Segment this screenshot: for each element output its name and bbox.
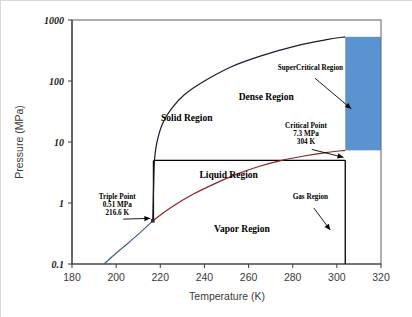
x-tick-label: 220 — [152, 271, 170, 283]
annotation-line: 0.51 MPa — [103, 201, 133, 209]
x-axis-title: Temperature (K) — [189, 290, 265, 302]
y-axis-title: Pressure (MPa) — [13, 105, 25, 179]
annotation-line: Critical Point — [285, 122, 327, 130]
shaded-regions-layer — [345, 37, 381, 151]
x-tick-label: 200 — [107, 271, 125, 283]
annotation-line: 7.3 MPa — [293, 130, 319, 138]
x-tick-label: 260 — [240, 271, 258, 283]
x-tick-label: 280 — [284, 271, 302, 283]
region-label-dense-region: Dense Region — [239, 92, 295, 102]
annotation-line: SuperCritical Region — [278, 64, 343, 72]
triple-point-marker — [151, 219, 155, 223]
x-tick-label: 300 — [328, 271, 346, 283]
special-points-layer — [151, 219, 155, 223]
y-tick-label: 10 — [54, 137, 64, 148]
x-tick-label: 320 — [372, 271, 390, 283]
region-label-liquid-region: Liquid Region — [200, 170, 259, 180]
y-tick-label: 100 — [49, 76, 64, 87]
annotation-line: Gas Region — [293, 193, 328, 201]
x-tick-label: 240 — [196, 271, 214, 283]
phase-diagram-figure: 1802002202402602803003200.11101001000 So… — [0, 0, 412, 317]
annotation-line: 216.6 K — [105, 209, 129, 217]
phase-diagram-svg: 1802002202402602803003200.11101001000 So… — [1, 1, 412, 317]
supercritical-shading — [345, 37, 381, 151]
y-tick-label: 1000 — [44, 15, 64, 26]
region-label-vapor-region: Vapor Region — [214, 224, 270, 234]
annotation-line: Triple Point — [99, 193, 136, 201]
annotation-line: 304 K — [297, 138, 316, 146]
y-tick-label: 0.1 — [52, 259, 65, 270]
region-label-solid-region: Solid Region — [161, 113, 213, 123]
y-tick-label: 1 — [59, 198, 64, 209]
x-tick-label: 180 — [63, 271, 81, 283]
